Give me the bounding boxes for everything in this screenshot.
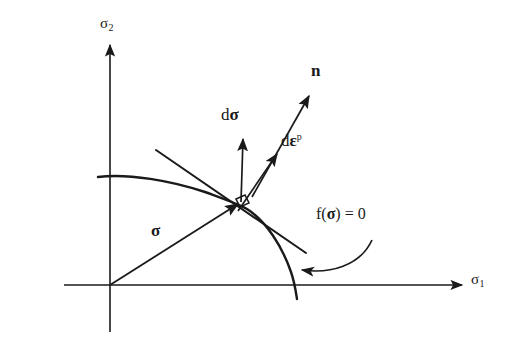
tangent-line — [156, 150, 306, 253]
d-eps-p-label-superscript: p — [297, 131, 302, 142]
yield-surface-curve — [98, 176, 297, 299]
axis-label-sigma1: σ1 — [471, 272, 485, 289]
yield-function-label-tail: ) = 0 — [335, 205, 365, 222]
stress-vector-arrow — [110, 204, 238, 285]
axis-label-sigma2-symbol: σ — [100, 15, 108, 31]
yield-surface-figure: σ2 σ1 σ dσ dεp n f(σ) = 0 — [0, 0, 513, 343]
d-sigma-label: dσ — [221, 106, 239, 123]
yield-function-label: f(σ) = 0 — [316, 206, 366, 222]
normal-vector-label: n — [311, 62, 320, 79]
d-sigma-arrow — [241, 139, 243, 202]
yield-function-leader-arrow — [302, 240, 372, 271]
axis-label-sigma2: σ2 — [100, 16, 114, 33]
d-sigma-label-d: d — [221, 105, 230, 124]
d-sigma-label-sigma: σ — [230, 105, 239, 124]
diagram-canvas — [0, 0, 513, 343]
d-eps-p-label-eps: ε — [290, 131, 297, 150]
axis-label-sigma1-symbol: σ — [471, 271, 479, 287]
axis-label-sigma1-subscript: 1 — [479, 278, 485, 289]
d-eps-p-label-d: d — [281, 131, 290, 150]
stress-vector-label: σ — [151, 222, 160, 239]
yield-function-label-f: f( — [316, 205, 327, 222]
axis-label-sigma2-subscript: 2 — [108, 22, 114, 33]
d-eps-p-label: dεp — [281, 132, 302, 149]
